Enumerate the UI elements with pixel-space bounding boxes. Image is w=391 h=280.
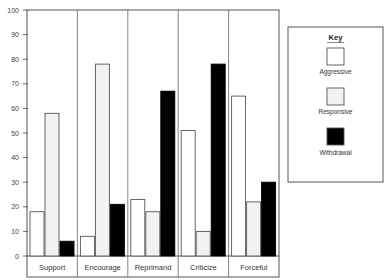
y-tick-label: 60 — [11, 105, 19, 112]
bar-withdrawal-support — [60, 241, 74, 256]
bar-responsive-criticize — [196, 231, 210, 256]
category-label: Support — [39, 263, 66, 272]
y-tick-label: 20 — [11, 203, 19, 210]
category-label: Criticize — [190, 263, 217, 272]
bar-aggressive-forceful — [232, 96, 246, 256]
legend-swatch-aggressive — [327, 48, 344, 65]
bar-aggressive-encourage — [80, 236, 94, 256]
bar-responsive-support — [45, 113, 59, 256]
y-tick-label: 80 — [11, 56, 19, 63]
bars — [30, 64, 276, 256]
legend-label: Aggressive — [319, 68, 352, 76]
legend-swatch-withdrawal — [327, 128, 344, 145]
legend-label: Responsive — [319, 108, 353, 116]
y-tick-label: 10 — [11, 228, 19, 235]
y-tick-label: 0 — [15, 253, 19, 260]
bar-withdrawal-reprimand — [161, 91, 175, 256]
category-label: Reprimand — [135, 263, 172, 272]
bar-responsive-encourage — [95, 64, 109, 256]
category-labels: SupportEncourageReprimandCriticizeForcef… — [39, 263, 268, 272]
legend-label: Withdrawal — [319, 149, 352, 156]
category-label: Forceful — [240, 263, 267, 272]
y-tick-label: 30 — [11, 179, 19, 186]
y-tick-label: 40 — [11, 154, 19, 161]
y-tick-label: 90 — [11, 31, 19, 38]
y-axis: 0102030405060708090100 — [7, 7, 28, 260]
bar-responsive-forceful — [247, 202, 261, 256]
bar-withdrawal-criticize — [211, 64, 225, 256]
bar-withdrawal-forceful — [262, 182, 276, 256]
legend: Key AggressiveResponsiveWithdrawal — [288, 27, 383, 182]
y-tick-label: 70 — [11, 80, 19, 87]
legend-title: Key — [329, 33, 344, 42]
legend-swatch-responsive — [327, 88, 344, 105]
bar-aggressive-criticize — [181, 131, 195, 256]
y-tick-label: 100 — [7, 7, 19, 14]
bar-aggressive-reprimand — [131, 199, 145, 256]
bar-responsive-reprimand — [146, 212, 160, 256]
y-tick-label: 50 — [11, 130, 19, 137]
bar-aggressive-support — [30, 212, 44, 256]
category-label: Encourage — [84, 263, 120, 272]
bar-withdrawal-encourage — [110, 204, 124, 256]
grouped-bar-chart: 0102030405060708090100 SupportEncourageR… — [0, 0, 391, 280]
